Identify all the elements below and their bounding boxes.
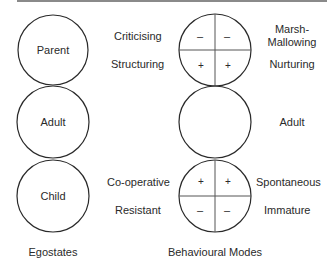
egostates-caption: Egostates (13, 246, 93, 259)
nurturing-label: Nurturing (262, 58, 322, 71)
immature-label: Immature (264, 204, 310, 217)
structuring-label: Structuring (111, 58, 164, 71)
parent-bottom-right-sign: + (225, 59, 231, 72)
parent-top-right-sign: – (224, 30, 230, 43)
child-bottom-right-sign: – (224, 204, 230, 217)
child-top-left-sign: + (198, 175, 204, 188)
adult-modes-circle (179, 86, 251, 158)
child-top-right-sign: + (225, 175, 231, 188)
cooperative-label: Co-operative (107, 176, 170, 189)
resistant-label: Resistant (115, 204, 161, 217)
marshmallowing-label-line2: Mallowing (262, 36, 322, 49)
adult-mode-label: Adult (262, 116, 322, 129)
behavioural-modes-caption: Behavioural Modes (160, 246, 270, 259)
child-bottom-left-sign: – (197, 204, 203, 217)
parent-bottom-left-sign: + (198, 59, 204, 72)
parent-top-left-sign: – (197, 30, 203, 43)
child-label: Child (23, 190, 83, 203)
parent-label: Parent (23, 44, 83, 57)
spontaneous-label: Spontaneous (256, 176, 321, 189)
adult-label: Adult (23, 116, 83, 129)
marshmallowing-label-line1: Marsh- (262, 23, 322, 36)
criticising-label: Criticising (114, 30, 162, 43)
